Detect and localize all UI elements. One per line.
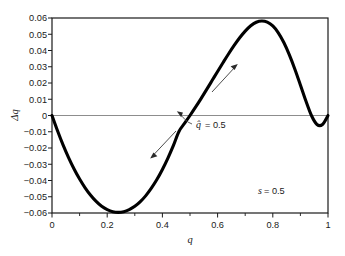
y-tick-label: 0.04 — [29, 46, 47, 56]
y-tick-label: −0.02 — [24, 143, 47, 153]
y-tick-label: 0.06 — [29, 13, 47, 23]
equilibrium-label-symbol: q̂ — [196, 119, 201, 130]
equilibrium-label-value: = 0.5 — [205, 120, 226, 130]
x-axis-title: q — [187, 234, 192, 245]
selection-parameter-value: = 0.5 — [264, 186, 285, 196]
x-tick-label: 0 — [49, 220, 54, 230]
selection-parameter-symbol: s — [258, 185, 262, 196]
y-tick-label: 0 — [42, 111, 47, 121]
x-tick-label: 0.2 — [101, 220, 114, 230]
x-tick-label: 0.4 — [156, 220, 169, 230]
y-tick-label: −0.05 — [24, 192, 47, 202]
y-tick-label: 0.01 — [29, 95, 47, 105]
y-tick-label: −0.03 — [24, 160, 47, 170]
y-tick-label: 0.03 — [29, 62, 47, 72]
delta-q-vs-q-line-chart: 0.060.050.040.030.020.010−0.01−0.02−0.03… — [0, 0, 345, 256]
y-tick-label: 0.02 — [29, 78, 47, 88]
x-tick-label: 1 — [325, 220, 330, 230]
x-tick-label: 0.8 — [266, 220, 279, 230]
x-tick-label: 0.6 — [211, 220, 224, 230]
chart-figure: 0.060.050.040.030.020.010−0.01−0.02−0.03… — [0, 0, 345, 256]
y-tick-label: −0.01 — [24, 127, 47, 137]
y-tick-label: 0.05 — [29, 30, 47, 40]
y-tick-label: −0.04 — [24, 176, 47, 186]
y-axis-title: Δq — [9, 109, 20, 121]
y-tick-label: −0.06 — [24, 208, 47, 218]
